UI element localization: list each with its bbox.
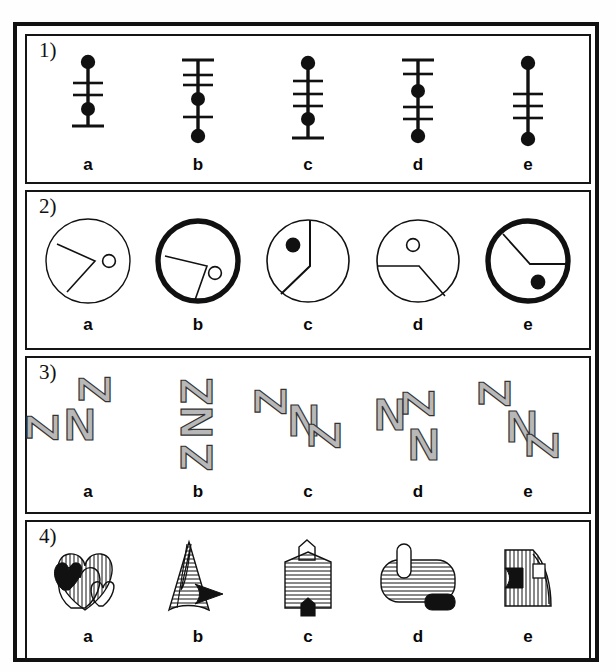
figure-2e — [482, 215, 574, 307]
row-4-options: a — [27, 522, 589, 658]
line-tick-figure-1a — [61, 55, 115, 147]
test-sheet: 1) a — [0, 0, 616, 672]
figure-2a — [42, 215, 134, 307]
option-label-1a: a — [83, 155, 93, 175]
svg-text:Z: Z — [70, 376, 119, 403]
svg-text:N: N — [64, 400, 96, 449]
option-label-3d: d — [413, 482, 424, 502]
option-label-4c: c — [303, 627, 313, 647]
option-2b[interactable]: b — [146, 215, 251, 335]
option-4b[interactable]: b — [146, 537, 251, 647]
letter-cluster-figure-3c: Z N Z — [254, 378, 362, 474]
circle-wedge-figure-2e — [483, 216, 573, 306]
option-2c[interactable]: c — [256, 215, 361, 335]
row-1-options: a b — [27, 36, 589, 182]
option-label-2c: c — [303, 315, 313, 335]
option-1b[interactable]: b — [146, 55, 251, 175]
figure-1d — [388, 55, 448, 147]
hatched-shape-figure-4d — [371, 538, 465, 618]
row-panel-2: 2) a — [25, 190, 591, 350]
svg-text:Z: Z — [172, 378, 221, 405]
letter-cluster-figure-3d: N Z N — [364, 378, 472, 474]
option-3b[interactable]: Z N Z b — [146, 378, 251, 502]
outer-frame: 1) a — [13, 22, 599, 662]
hatched-shape-figure-4e — [481, 538, 575, 618]
row-panel-1: 1) a — [25, 34, 591, 184]
option-label-4b: b — [193, 627, 204, 647]
circle-wedge-figure-2c — [263, 216, 353, 306]
row-panel-4: 4) — [25, 520, 591, 660]
figure-1c — [278, 55, 338, 147]
hatched-shape-figure-4c — [261, 538, 355, 618]
figure-1b — [168, 55, 228, 147]
option-label-4d: d — [413, 627, 424, 647]
figure-2b — [152, 215, 244, 307]
figure-4e — [480, 537, 576, 619]
circle-wedge-figure-2b — [153, 216, 243, 306]
option-4d[interactable]: d — [366, 537, 471, 647]
option-label-1b: b — [193, 155, 204, 175]
svg-text:Z: Z — [300, 422, 349, 449]
figure-2c — [262, 215, 354, 307]
option-3a[interactable]: Z N Z a — [36, 378, 141, 502]
option-label-2e: e — [523, 315, 533, 335]
row-panel-3: 3) Z N Z a — [25, 356, 591, 514]
row-2-options: a b — [27, 192, 589, 348]
option-1c[interactable]: c — [256, 55, 361, 175]
letter-cluster-figure-3e: Z N Z — [474, 378, 582, 474]
option-2d[interactable]: d — [366, 215, 471, 335]
option-label-1d: d — [413, 155, 424, 175]
line-tick-figure-1b — [171, 55, 225, 147]
figure-3a: Z N Z — [33, 378, 143, 474]
option-label-1c: c — [303, 155, 313, 175]
svg-text:N: N — [408, 420, 440, 469]
option-label-3a: a — [83, 482, 93, 502]
line-tick-figure-1c — [281, 55, 335, 147]
figure-1a — [58, 55, 118, 147]
option-2e[interactable]: e — [476, 215, 581, 335]
letter-cluster-figure-3b: Z N Z — [144, 378, 252, 474]
option-3c[interactable]: Z N Z c — [256, 378, 361, 502]
svg-text:Z: Z — [18, 414, 67, 441]
option-4e[interactable]: e — [476, 537, 581, 647]
svg-text:Z: Z — [172, 444, 221, 471]
option-3e[interactable]: Z N Z e — [476, 378, 581, 502]
svg-text:Z: Z — [518, 432, 567, 459]
option-label-2a: a — [83, 315, 93, 335]
option-1d[interactable]: d — [366, 55, 471, 175]
hatched-shape-figure-4a — [41, 538, 135, 618]
option-1e[interactable]: e — [476, 55, 581, 175]
option-label-4e: e — [523, 627, 533, 647]
figure-4b — [150, 537, 246, 619]
line-tick-figure-1e — [501, 55, 555, 147]
figure-3d: N Z N — [363, 378, 473, 474]
figure-3e: Z N Z — [473, 378, 583, 474]
circle-wedge-figure-2d — [373, 216, 463, 306]
figure-1e — [498, 55, 558, 147]
option-4a[interactable]: a — [36, 537, 141, 647]
svg-text:Z: Z — [394, 390, 443, 417]
letter-cluster-figure-3a: Z N Z — [34, 378, 142, 474]
row-3-options: Z N Z a Z — [27, 358, 589, 512]
figure-3b: Z N Z — [143, 378, 253, 474]
option-label-2b: b — [193, 315, 204, 335]
option-3d[interactable]: N Z N d — [366, 378, 471, 502]
option-label-2d: d — [413, 315, 424, 335]
option-1a[interactable]: a — [36, 55, 141, 175]
hatched-shape-figure-4b — [151, 538, 245, 618]
option-2a[interactable]: a — [36, 215, 141, 335]
option-label-3e: e — [523, 482, 533, 502]
option-label-3b: b — [193, 482, 204, 502]
figure-4a — [40, 537, 136, 619]
option-label-4a: a — [83, 627, 93, 647]
figure-2d — [372, 215, 464, 307]
line-tick-figure-1d — [391, 55, 445, 147]
circle-wedge-figure-2a — [43, 216, 133, 306]
option-4c[interactable]: c — [256, 537, 361, 647]
svg-text:N: N — [172, 406, 221, 438]
option-label-1e: e — [523, 155, 533, 175]
figure-4c — [260, 537, 356, 619]
option-label-3c: c — [303, 482, 313, 502]
figure-3c: Z N Z — [253, 378, 363, 474]
figure-4d — [370, 537, 466, 619]
